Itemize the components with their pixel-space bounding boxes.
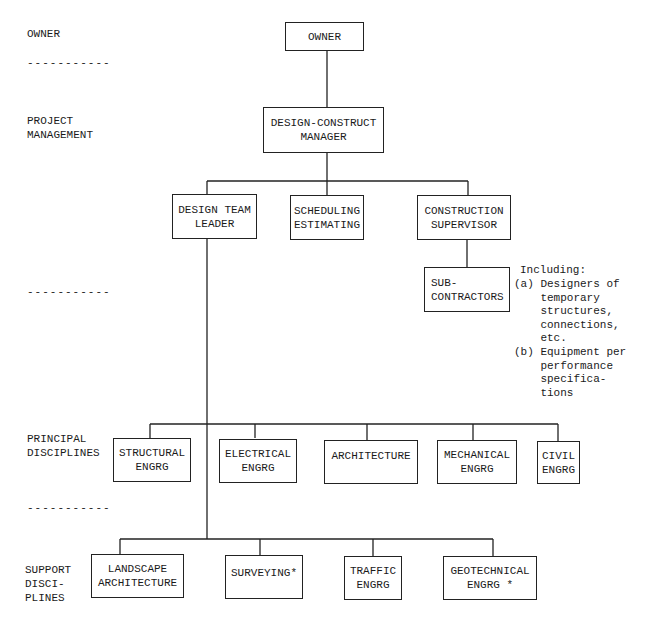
level-label-owner: OWNER [27, 27, 60, 41]
node-sub-contractors: SUB- CONTRACTORS [424, 267, 510, 312]
level-label-project-management: PROJECT MANAGEMENT [27, 114, 93, 142]
node-geotechnical-engrg: GEOTECHNICAL ENGRG * [443, 556, 537, 600]
node-construction-supervisor: CONSTRUCTION SUPERVISOR [417, 195, 511, 240]
node-architecture: ARCHITECTURE [324, 440, 418, 484]
node-design-construct-manager: DESIGN-CONSTRUCT MANAGER [263, 107, 384, 153]
node-mechanical-engrg: MECHANICAL ENGRG [437, 440, 517, 484]
node-scheduling-estimating: SCHEDULING ESTIMATING [290, 195, 364, 240]
level-label-principal-disciplines: PRINCIPAL DISCIPLINES [27, 432, 100, 460]
level-separator: ----------- [27, 286, 111, 298]
node-landscape-architecture: LANDSCAPE ARCHITECTURE [91, 554, 184, 598]
node-owner: OWNER [285, 22, 364, 51]
level-label-support-disciplines: SUPPORT DISCI- PLINES [25, 563, 71, 605]
node-structural-engrg: STRUCTURAL ENGRG [113, 438, 191, 482]
level-separator: ----------- [27, 57, 111, 69]
note-item-b: (b) Equipment per performance specifica-… [514, 346, 626, 400]
level-separator: ----------- [27, 502, 111, 514]
node-traffic-engrg: TRAFFIC ENGRG [344, 556, 402, 600]
node-electrical-engrg: ELECTRICAL ENGRG [219, 439, 297, 483]
node-civil-engrg: CIVIL ENGRG [537, 441, 580, 484]
note-title: Including: [520, 264, 586, 278]
node-design-team-leader: DESIGN TEAM LEADER [172, 194, 257, 239]
node-surveying: SURVEYING* [225, 555, 303, 599]
note-item-a: (a) Designers of temporary structures, c… [514, 278, 620, 346]
